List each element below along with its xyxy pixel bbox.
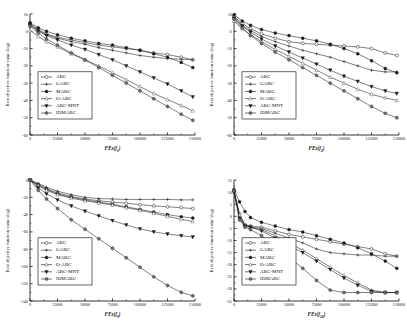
svg-text:-50: -50 [22,115,27,120]
svg-text:-40: -40 [22,98,27,103]
svg-text:50000: 50000 [80,302,90,307]
svg-text:125000: 125000 [365,136,377,141]
svg-text:-35: -35 [226,299,231,304]
legend: ABCGABCMABCO-ABCABC-MNTIDMABC [38,72,92,119]
x-axis-ticks: 0250005000075000100000125000150000 [29,132,201,141]
x-axis-title: FEs(f9) [104,311,120,319]
svg-text:25000: 25000 [256,136,266,141]
svg-text:-80: -80 [22,247,27,252]
svg-text:25000: 25000 [256,302,266,307]
convergence-figure: 0250005000075000100000125000150000100-10… [0,0,407,331]
svg-text:100000: 100000 [134,136,146,141]
svg-text:150000: 150000 [393,136,405,141]
legend-label: IDMABC [56,110,77,115]
svg-text:-140: -140 [20,299,28,304]
svg-text:75000: 75000 [311,302,321,307]
svg-text:-30: -30 [226,286,231,291]
svg-text:100000: 100000 [338,136,350,141]
panel-f14-svg: 0250005000075000100000125000150000151050… [204,166,407,331]
svg-text:0: 0 [26,29,28,34]
svg-text:100000: 100000 [134,302,146,307]
svg-text:-20: -20 [22,195,27,200]
x-axis-ticks: 0250005000075000100000125000150000 [29,298,201,307]
svg-text:Best objective function value: Best objective function value (log) [209,42,214,106]
y-axis-ticks: 0-20-40-60-80-100-120-140 [20,178,32,304]
svg-text:15: 15 [228,178,232,183]
panel-f2-svg: 0250005000075000100000125000150000100-10… [204,0,407,165]
svg-text:25000: 25000 [52,136,62,141]
legend-label: ABC-MNT [56,269,79,274]
legend-label: IDMABC [260,110,281,115]
legend-label: MABC [56,255,71,260]
series-abc-mnt [28,179,194,239]
series-abc [29,22,195,61]
svg-text:125000: 125000 [161,302,173,307]
legend-label: O-ABC [260,96,276,101]
panel-f9-svg: 02500050000750001000001250001500000-20-4… [0,166,203,331]
svg-text:75000: 75000 [107,302,117,307]
legend: ABCGABCMABCO-ABCABC-MNTIDMABC [38,238,92,285]
svg-text:150000: 150000 [393,302,405,307]
y-axis-ticks: 100-10-20-30-40-50-60 [226,12,236,138]
svg-text:-60: -60 [22,229,27,234]
svg-text:125000: 125000 [365,302,377,307]
svg-text:50000: 50000 [80,136,90,141]
svg-text:FEs(f2): FEs(f2) [308,145,324,153]
svg-text:-100: -100 [20,264,28,269]
svg-text:-60: -60 [22,133,27,138]
legend-label: O-ABC [56,96,72,101]
svg-text:-40: -40 [226,98,231,103]
series-gabc [28,23,194,62]
legend-label: O-ABC [56,262,72,267]
legend-label: ABC [56,240,67,245]
svg-text:-10: -10 [226,46,231,51]
legend-label: IDMABC [56,276,77,281]
y-axis-title: Best objective function value (log) [5,208,10,272]
svg-text:125000: 125000 [161,136,173,141]
legend-label: GABC [260,247,275,252]
legend-label: GABC [260,81,275,86]
svg-text:50000: 50000 [284,136,294,141]
svg-text:Best objective function value: Best objective function value (log) [5,42,10,106]
legend-label: ABC-MNT [260,269,283,274]
svg-text:FEs(f9): FEs(f9) [104,311,120,319]
svg-text:75000: 75000 [311,136,321,141]
svg-text:-10: -10 [226,238,231,243]
legend-label: IDMABC [260,276,281,281]
svg-text:0: 0 [26,178,28,183]
x-axis-ticks: 0250005000075000100000125000150000 [233,298,405,307]
svg-text:0: 0 [29,136,31,141]
y-axis-title: Best objective function value (log) [209,42,214,106]
svg-text:-50: -50 [226,115,231,120]
svg-text:100000: 100000 [338,302,350,307]
chart-panel-f1: 0250005000075000100000125000150000100-10… [0,0,203,165]
svg-text:FEs(f14): FEs(f14) [308,311,326,319]
legend-label: MABC [260,255,275,260]
legend-label: ABC-MNT [56,103,79,108]
chart-panel-f14: 0250005000075000100000125000150000151050… [204,166,407,331]
svg-text:-10: -10 [22,46,27,51]
chart-panel-f9: 02500050000750001000001250001500000-20-4… [0,166,203,331]
svg-text:75000: 75000 [107,136,117,141]
x-axis-title: FEs(f14) [308,311,326,319]
series-gabc [28,178,194,201]
svg-text:FEs(f1): FEs(f1) [104,145,120,153]
svg-text:50000: 50000 [284,302,294,307]
svg-text:-60: -60 [226,133,231,138]
legend-label: ABC [260,74,271,79]
svg-text:25000: 25000 [52,302,62,307]
series-o-abc [28,178,194,223]
x-axis-ticks: 0250005000075000100000125000150000 [233,132,405,141]
x-axis-title: FEs(f1) [104,145,120,153]
legend-label: MABC [56,89,71,94]
svg-text:5: 5 [230,202,232,207]
legend-label: GABC [56,247,71,252]
legend-label: O-ABC [260,262,276,267]
legend: ABCGABCMABCO-ABCABC-MNTIDMABC [242,238,296,285]
chart-panel-f2: 0250005000075000100000125000150000100-10… [204,0,407,165]
panel-f1-svg: 0250005000075000100000125000150000100-10… [0,0,203,165]
svg-text:-30: -30 [226,81,231,86]
svg-text:0: 0 [233,136,235,141]
x-axis-title: FEs(f2) [308,145,324,153]
svg-text:10: 10 [228,12,232,17]
